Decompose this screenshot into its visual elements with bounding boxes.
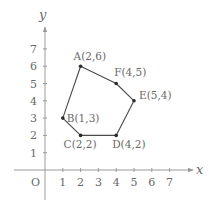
vertex-label-A: A(2,6): [73, 50, 106, 62]
y-tick-label: 3: [30, 112, 37, 125]
vertex-B: [61, 116, 65, 120]
vertex-label-B: B(1,3): [67, 112, 100, 124]
y-tick-label: 5: [30, 78, 37, 91]
vertex-label-C: C(2,2): [64, 138, 97, 150]
x-tick-label: 2: [77, 176, 84, 189]
edge-ED: [116, 101, 134, 136]
x-tick-label: 6: [148, 176, 155, 189]
x-tick-label: 5: [131, 176, 138, 189]
vertex-C: [79, 134, 83, 138]
edge-BA: [63, 66, 81, 118]
vertex-E: [132, 99, 136, 103]
vertex-label-D: D(4,2): [112, 138, 145, 150]
y-axis-label: y: [38, 7, 47, 22]
y-tick-label: 7: [30, 43, 37, 56]
x-tick-label: 1: [59, 176, 66, 189]
edge-AF: [81, 66, 117, 83]
y-tick-label: 2: [30, 129, 37, 142]
vertex-label-F: F(4,5): [114, 66, 146, 78]
vertex-label-E: E(5,4): [139, 89, 172, 101]
vertex-A: [79, 64, 83, 68]
x-tick-label: 3: [95, 176, 102, 189]
coordinate-diagram: x y O 12345671234567 A(2,6)F(4,5)E(5,4)D…: [0, 0, 214, 207]
x-tick-label: 7: [166, 176, 173, 189]
x-axis-label: x: [196, 162, 204, 177]
origin-label: O: [31, 176, 40, 189]
x-tick-label: 4: [113, 176, 120, 189]
y-tick-label: 6: [30, 60, 37, 73]
vertex-D: [114, 134, 118, 138]
y-tick-label: 4: [30, 95, 37, 108]
y-tick-label: 1: [30, 147, 37, 160]
vertex-F: [114, 82, 118, 86]
edge-FE: [116, 84, 134, 101]
